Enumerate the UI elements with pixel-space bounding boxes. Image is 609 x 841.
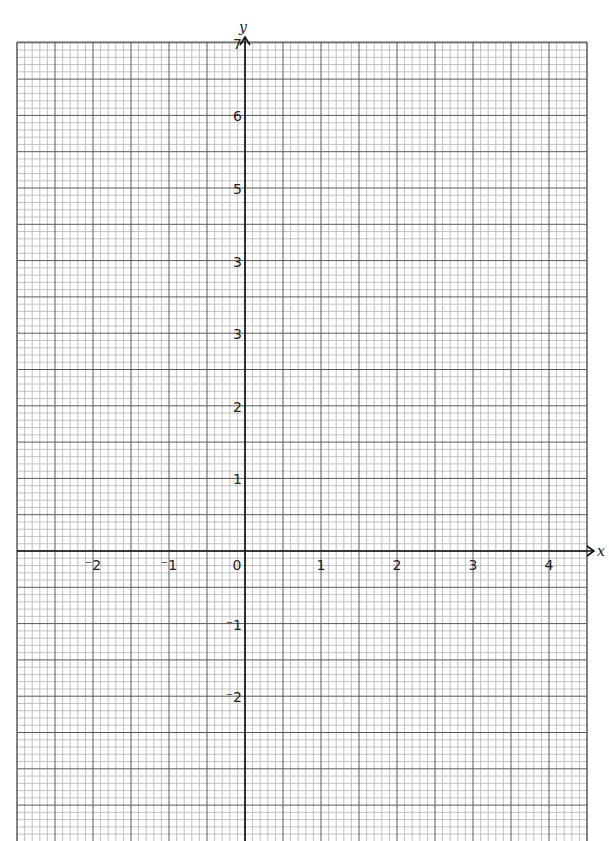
x-axis-label: x	[597, 543, 605, 559]
y-tick-label: 3	[233, 254, 242, 270]
y-tick-label: 3	[233, 326, 242, 342]
y-tick-label: 5	[233, 181, 242, 197]
x-tick-label: 4	[545, 557, 554, 573]
major-gridlines	[17, 42, 587, 841]
x-tick-label: ⁻2	[85, 557, 101, 573]
y-tick-label: ⁻1	[226, 617, 242, 633]
y-tick-label: ⁻2	[226, 689, 242, 705]
y-tick-label: 7	[233, 36, 242, 52]
x-tick-label: 0	[233, 557, 242, 573]
x-tick-label: 2	[393, 557, 402, 573]
y-tick-label: 6	[233, 108, 242, 124]
x-tick-label: 3	[469, 557, 478, 573]
graph-paper-chart: xy⁻2⁻1012347653321⁻1⁻2	[0, 0, 609, 841]
y-tick-label: 1	[233, 471, 242, 487]
x-tick-label: ⁻1	[161, 557, 177, 573]
y-tick-label: 2	[233, 399, 242, 415]
minor-gridlines	[17, 42, 587, 841]
y-axis-label: y	[238, 19, 248, 35]
x-tick-label: 1	[317, 557, 326, 573]
